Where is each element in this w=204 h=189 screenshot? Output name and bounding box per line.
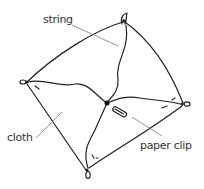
string-top (107, 25, 127, 103)
knot-bottom (85, 168, 90, 178)
fold-mark-right-2 (172, 98, 175, 100)
label-cloth: cloth (7, 131, 33, 144)
center-knot (105, 101, 110, 106)
paper-clip-icon (112, 106, 127, 118)
label-paper-clip: paper clip (140, 139, 192, 152)
cloth-edge-bottom-right (89, 106, 182, 168)
label-string: string (43, 13, 73, 26)
knot-right (180, 102, 190, 106)
cloth-edge-bottom-left (27, 84, 86, 170)
pointer-paper-clip (132, 117, 162, 136)
cloth-edge-top-right (125, 22, 183, 103)
fold-mark-left (35, 86, 39, 89)
string-right (107, 97, 180, 104)
cloth-edge-top-left (27, 22, 123, 82)
knot-left (20, 80, 29, 84)
string-left (28, 81, 107, 103)
fold-mark-right (162, 106, 167, 108)
parachute-diagram (0, 0, 204, 189)
fold-mark-bottom (92, 155, 98, 158)
